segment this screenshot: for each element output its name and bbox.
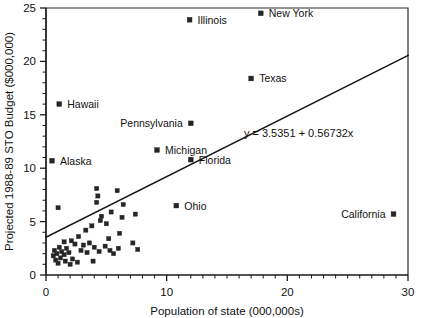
data-point	[131, 241, 135, 245]
data-point	[85, 250, 89, 254]
plot-area: 05101520250102030Population of state (00…	[0, 0, 422, 318]
y-tick-label: 0	[30, 269, 36, 281]
data-point	[84, 228, 88, 232]
data-point	[91, 259, 95, 263]
data-point-label: Alaska	[60, 155, 92, 167]
data-point	[99, 214, 103, 218]
data-point	[95, 186, 99, 190]
data-point	[115, 189, 119, 193]
data-point-labeled	[188, 121, 193, 126]
data-point	[90, 224, 94, 228]
data-point	[64, 246, 68, 250]
scatter-chart: 05101520250102030Population of state (00…	[0, 0, 422, 318]
data-point	[81, 243, 85, 247]
data-point-labeled	[258, 11, 263, 16]
data-point-labeled	[188, 157, 193, 162]
data-point-labeled	[249, 76, 254, 81]
data-point	[70, 257, 74, 261]
data-point	[76, 234, 80, 238]
data-point	[118, 231, 122, 235]
data-point	[67, 250, 71, 254]
y-tick-label: 20	[23, 55, 36, 67]
data-point	[58, 256, 62, 260]
data-point	[104, 222, 108, 226]
data-point	[92, 245, 96, 249]
data-point-labeled	[391, 212, 396, 217]
data-point-label: Florida	[199, 154, 231, 166]
x-tick-label: 20	[281, 286, 294, 298]
data-point	[63, 259, 67, 263]
data-point-label: California	[341, 208, 386, 220]
x-axis-title: Population of state (000,000s)	[150, 305, 304, 317]
y-tick-label: 10	[23, 162, 36, 174]
data-point	[136, 247, 140, 251]
data-point	[96, 194, 100, 198]
data-point	[109, 210, 113, 214]
x-tick-label: 0	[43, 286, 49, 298]
data-point	[116, 246, 120, 250]
data-point-label: Hawaii	[67, 98, 99, 110]
data-point	[68, 262, 72, 266]
x-tick-label: 10	[160, 286, 173, 298]
data-point-label: Pennsylvania	[120, 117, 183, 129]
data-point	[107, 237, 111, 241]
data-point-label: New York	[269, 7, 314, 19]
y-tick-label: 15	[23, 109, 36, 121]
data-point-label: Illinois	[198, 14, 227, 26]
regression-equation: y = 3.5351 + 0.56732x	[244, 127, 354, 139]
data-point	[57, 245, 61, 249]
data-point	[51, 254, 55, 258]
x-tick-label: 30	[402, 286, 415, 298]
data-point-label: Ohio	[184, 200, 206, 212]
data-point	[56, 261, 60, 265]
data-point	[56, 206, 60, 210]
data-point-labeled	[50, 158, 55, 163]
y-tick-label: 5	[30, 216, 36, 228]
data-point	[98, 218, 102, 222]
data-point	[120, 215, 124, 219]
data-point	[95, 200, 99, 204]
data-point	[87, 241, 91, 245]
data-point	[75, 260, 79, 264]
data-point-labeled	[155, 148, 160, 153]
data-point	[121, 202, 125, 206]
data-point-labeled	[187, 17, 192, 22]
data-point	[133, 212, 137, 216]
data-point-labeled	[57, 102, 62, 107]
plot-frame	[46, 8, 408, 275]
data-point	[108, 248, 112, 252]
y-axis-title: Projected 1988-89 STO Budget ($000,000)	[3, 32, 15, 251]
data-point	[103, 244, 107, 248]
data-point	[97, 249, 101, 253]
data-point	[62, 240, 66, 244]
data-point-label: Texas	[259, 72, 286, 84]
data-point	[73, 242, 77, 246]
data-point	[79, 248, 83, 252]
y-tick-label: 25	[23, 2, 36, 14]
data-point-labeled	[174, 203, 179, 208]
